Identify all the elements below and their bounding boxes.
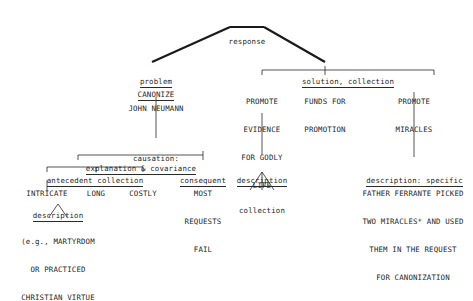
node-most-requests-fail-line-2: REQUESTS	[176, 217, 230, 226]
node-funds-for-promotion-line-2: PROMOTION	[293, 125, 357, 134]
eg-block-line-3: CHRISTIAN VIRTUE	[4, 293, 112, 301]
node-costly[interactable]: COSTLY	[121, 170, 165, 218]
node-response-label: response	[215, 37, 279, 47]
node-promote-miracles-line-2: MIRACLES	[386, 125, 442, 134]
node-most-requests-fail-line-3: FAIL	[176, 245, 230, 254]
eg-block-line-1: (e.g., MARTYRDOM	[4, 237, 112, 246]
node-promote-miracles-line-1: PROMOTE	[386, 97, 442, 106]
node-john-neumann-label: JOHN NEUMANN	[114, 104, 198, 114]
ferrante-block-line-1: FATHER FERRANTE PICKED	[353, 189, 473, 198]
node-eg-block[interactable]: (e.g., MARTYRDOM OR PRACTICED CHRISTIAN …	[4, 218, 112, 301]
node-costly-label: COSTLY	[121, 189, 165, 199]
node-funds-for-promotion[interactable]: FUNDS FOR PROMOTION	[293, 78, 357, 153]
ferrante-block-line-2: TWO MIRACLES* AND USED	[353, 217, 473, 226]
eg-block-line-2: OR PRACTICED	[4, 265, 112, 274]
node-john-neumann[interactable]: JOHN NEUMANN	[114, 85, 198, 133]
node-description-collection[interactable]: description collection	[228, 157, 296, 235]
node-promote-miracles[interactable]: PROMOTE MIRACLES	[386, 78, 442, 153]
node-description-collection-label-2: collection	[228, 206, 296, 216]
node-ferrante-block[interactable]: FATHER FERRANTE PICKED TWO MIRACLES* AND…	[353, 170, 473, 301]
ferrante-block-line-4: FOR CANONIZATION	[353, 273, 473, 282]
node-promote-evidence-line-1: PROMOTE	[232, 97, 292, 106]
node-description-collection-label-1: description	[237, 176, 288, 187]
node-promote-evidence-line-2: EVIDENCE	[232, 125, 292, 134]
node-funds-for-promotion-line-1: FUNDS FOR	[293, 97, 357, 106]
ferrante-block-line-3: THEM IN THE REQUEST	[353, 245, 473, 254]
node-response[interactable]: response	[215, 18, 279, 66]
diagram-canvas: response problem CANONIZE JOHN NEUMANN s…	[0, 0, 473, 301]
node-most-requests-fail-line-1: MOST	[176, 189, 230, 198]
node-most-requests-fail[interactable]: MOST REQUESTS FAIL	[176, 170, 230, 273]
